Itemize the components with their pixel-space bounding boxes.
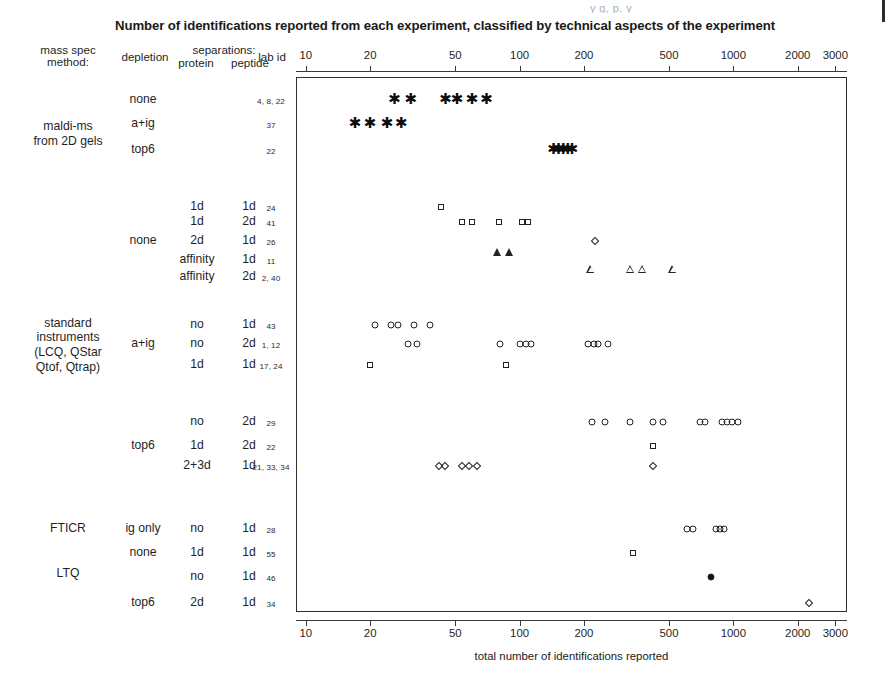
data-point-circle-r9-8 <box>595 341 602 348</box>
data-point-circle-r9-1 <box>413 341 420 348</box>
axis-tick-label-bot-200: 200 <box>562 627 606 639</box>
row-9-protein: no <box>168 337 226 350</box>
row-3-protein: 1d <box>168 200 226 213</box>
axis-tick-bot-2000 <box>798 621 799 626</box>
axis-tick-top-3000 <box>835 66 836 71</box>
data-point-square-r4-4 <box>525 219 531 225</box>
row-15-lab-id: 55 <box>246 548 296 561</box>
row-12-lab-id: 22 <box>246 441 296 454</box>
axis-tick-label-top-50: 50 <box>433 49 477 61</box>
axis-tick-bot-20 <box>370 621 371 626</box>
axis-tick-bot-200 <box>584 621 585 626</box>
data-point-circle-r8-0 <box>371 322 378 329</box>
row-0-depletion: none <box>108 93 178 106</box>
data-point-square-r4-2 <box>496 219 502 225</box>
row-14-lab-id: 28 <box>246 524 296 537</box>
data-point-circle-r11-4 <box>660 419 667 426</box>
axis-tick-label-top-100: 100 <box>498 49 542 61</box>
row-13-protein: 2+3d <box>168 459 226 472</box>
row-15-protein: 1d <box>168 546 226 559</box>
axis-tick-top-1000 <box>733 66 734 71</box>
data-point-circle-r11-1 <box>602 419 609 426</box>
data-point-star-r2-4: ✱ <box>566 142 579 157</box>
axis-tick-top-10 <box>306 66 307 71</box>
group-label-0: maldi-msfrom 2D gels <box>16 119 120 148</box>
data-point-star-r1-3: ✱ <box>395 116 408 131</box>
data-point-circle-r8-3 <box>410 322 417 329</box>
axis-tick-top-500 <box>669 66 670 71</box>
data-point-star-r1-0: ✱ <box>349 116 362 131</box>
row-6-protein: affinity <box>168 253 226 266</box>
data-point-circle-r14-1 <box>690 526 697 533</box>
row-1-lab-id: 37 <box>246 119 296 132</box>
row-12-protein: 1d <box>168 439 226 452</box>
axis-tick-top-50 <box>455 66 456 71</box>
row-2-lab-id: 22 <box>246 145 296 158</box>
data-point-triangle-r6-1 <box>506 256 514 264</box>
row-4-protein: 1d <box>168 215 226 228</box>
data-point-triangle-r7-1 <box>626 273 634 281</box>
column-header-protein: protein <box>168 57 224 69</box>
axis-tick-label-bot-500: 500 <box>647 627 691 639</box>
row-10-protein: 1d <box>168 358 226 371</box>
data-point-square-r10-1 <box>503 362 509 368</box>
data-point-square-r4-3 <box>519 219 525 225</box>
axis-tick-top-20 <box>370 66 371 71</box>
x-axis-label: total number of identifications reported <box>296 650 847 662</box>
axis-tick-top-200 <box>584 66 585 71</box>
top-axis-line <box>296 71 847 72</box>
group-label-2: FTICR <box>16 521 120 536</box>
data-point-circle-r8-1 <box>387 322 394 329</box>
axis-tick-bot-1000 <box>733 621 734 626</box>
bottom-axis-line <box>296 620 847 621</box>
data-point-circle-r9-5 <box>527 341 534 348</box>
axis-tick-top-100 <box>520 66 521 71</box>
data-point-circle-r8-2 <box>395 322 402 329</box>
row-16-protein: no <box>168 570 226 583</box>
axis-tick-label-top-200: 200 <box>562 49 606 61</box>
row-9-lab-id: 1, 12 <box>246 339 296 352</box>
data-point-triangle-r7-2 <box>638 273 646 281</box>
data-point-square-r10-0 <box>367 362 373 368</box>
data-point-circle-r9-9 <box>604 341 611 348</box>
data-point-triangle-r6-0 <box>494 256 502 264</box>
group-label-3: LTQ <box>16 566 120 581</box>
group-label-1: standardinstruments(LCQ, QStarQtof, Qtra… <box>16 316 120 374</box>
data-point-circle-r11-0 <box>588 419 595 426</box>
data-point-square-r3-0 <box>438 204 444 210</box>
row-2-depletion: top6 <box>108 143 178 156</box>
data-point-star-r1-1: ✱ <box>364 116 377 131</box>
row-5-protein: 2d <box>168 234 226 247</box>
row-0-lab-id: 4, 8, 22 <box>246 95 296 108</box>
data-point-circle-r9-0 <box>404 341 411 348</box>
data-point-star-r0-5: ✱ <box>480 92 493 107</box>
axis-tick-label-top-500: 500 <box>647 49 691 61</box>
data-point-circle-r11-3 <box>649 419 656 426</box>
data-point-triangle-r7-0 <box>587 273 595 281</box>
row-13-lab-id: 21, 33, 34 <box>246 461 296 474</box>
axis-tick-label-bot-50: 50 <box>433 627 477 639</box>
data-point-star-r0-1: ✱ <box>405 92 418 107</box>
data-point-square-r15-0 <box>630 550 636 556</box>
row-17-protein: 2d <box>168 596 226 609</box>
axis-tick-label-bot-1000: 1000 <box>711 627 755 639</box>
row-5-lab-id: 26 <box>246 236 296 249</box>
axis-tick-label-bot-100: 100 <box>498 627 542 639</box>
axis-tick-bot-500 <box>669 621 670 626</box>
axis-tick-top-2000 <box>798 66 799 71</box>
row-4-lab-id: 41 <box>246 217 296 230</box>
data-point-square-r4-1 <box>469 219 475 225</box>
row-10-lab-id: 17, 24 <box>246 360 296 373</box>
data-point-star-r0-3: ✱ <box>451 92 464 107</box>
data-point-square-r12-0 <box>650 443 656 449</box>
data-point-triangle-r7-3 <box>669 273 677 281</box>
data-point-circle-r14-4 <box>720 526 727 533</box>
column-header-mass-spec-method: mass specmethod: <box>22 44 114 69</box>
row-17-lab-id: 34 <box>246 598 296 611</box>
row-8-lab-id: 43 <box>246 320 296 333</box>
row-11-protein: no <box>168 415 226 428</box>
data-point-circle-r11-2 <box>627 419 634 426</box>
row-6-lab-id: 11 <box>246 255 296 268</box>
row-8-protein: no <box>168 318 226 331</box>
data-point-circle-r16-0 <box>708 574 715 581</box>
